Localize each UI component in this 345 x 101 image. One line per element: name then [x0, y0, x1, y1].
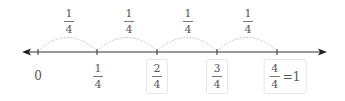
- fraction-bar: [183, 21, 193, 22]
- fraction-bar: [93, 76, 103, 77]
- denominator: 4: [125, 24, 134, 35]
- fraction-bar: [64, 21, 74, 22]
- numerator: 4: [270, 63, 279, 74]
- label-four-quarters-box: 4 4 =1: [264, 59, 307, 94]
- label-zero: 0: [34, 69, 42, 83]
- fraction-bar: [270, 76, 280, 77]
- denominator: 4: [270, 79, 279, 90]
- jump-arc-1: [38, 38, 97, 52]
- numerator: 3: [213, 63, 222, 74]
- equals-one: =1: [283, 70, 301, 84]
- denominator: 4: [65, 24, 74, 35]
- jump-label-4: 1 4: [243, 8, 253, 35]
- label-two-quarters: 2 4: [152, 63, 162, 90]
- fraction-number-line: 1 4 1 4 1 4 1 4 0 1 4 2 4 3 4: [0, 0, 345, 101]
- label-three-quarters: 3 4: [212, 63, 222, 90]
- fraction-bar: [243, 21, 253, 22]
- jump-label-2: 1 4: [124, 8, 134, 35]
- fraction-bar: [152, 76, 162, 77]
- jump-arc-3: [157, 38, 217, 52]
- denominator: 4: [184, 24, 193, 35]
- numerator: 1: [65, 8, 74, 19]
- denominator: 4: [94, 79, 103, 90]
- jump-arc-4: [217, 38, 277, 52]
- denominator: 4: [153, 79, 162, 90]
- denominator: 4: [213, 79, 222, 90]
- numerator: 1: [184, 8, 193, 19]
- label-four-quarters: 4 4: [270, 63, 280, 90]
- jump-arc-2: [97, 38, 157, 52]
- label-one-quarter: 1 4: [93, 63, 103, 90]
- numerator: 1: [94, 63, 103, 74]
- numerator: 1: [125, 8, 134, 19]
- numerator: 1: [244, 8, 253, 19]
- numerator: 2: [153, 63, 162, 74]
- label-three-quarters-box: 3 4: [206, 59, 228, 94]
- denominator: 4: [244, 24, 253, 35]
- jump-label-1: 1 4: [64, 8, 74, 35]
- label-two-quarters-box: 2 4: [146, 59, 168, 94]
- fraction-bar: [212, 76, 222, 77]
- jump-label-3: 1 4: [183, 8, 193, 35]
- fraction-bar: [124, 21, 134, 22]
